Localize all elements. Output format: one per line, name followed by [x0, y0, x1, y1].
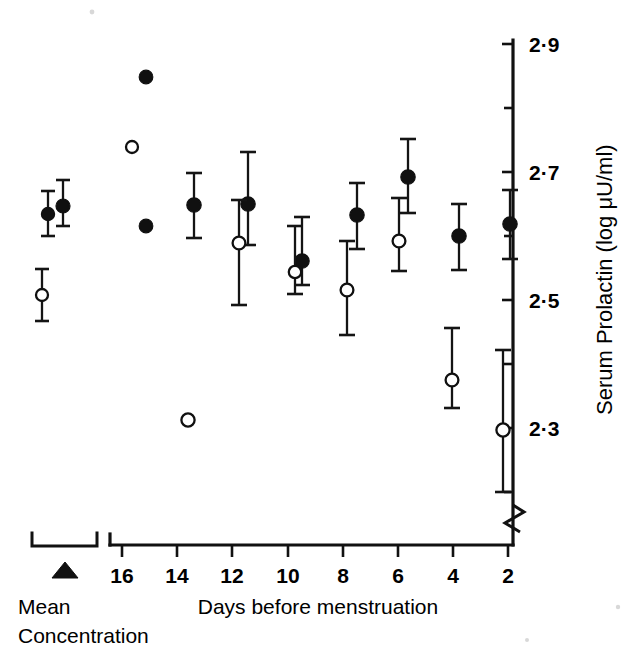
data-point-open	[444, 328, 460, 408]
data-point-open	[495, 350, 511, 492]
mean-label-line2: Concentration	[18, 624, 149, 647]
x-tick-label: 14	[165, 564, 189, 587]
y-axis-title: Serum Prolactin (log μU/ml)	[592, 144, 617, 415]
data-point-filled	[139, 219, 153, 233]
data-point-open	[181, 413, 194, 426]
mean-point-filled-2	[56, 180, 70, 226]
x-tick-label: 16	[110, 564, 133, 587]
data-point-open	[391, 198, 407, 271]
figure-canvas: 2·9 2·7 2·5 2·3 Serum Prolactin (log μU/…	[0, 0, 636, 663]
scan-speck	[616, 605, 620, 609]
y-tick-label: 2·5	[529, 289, 560, 312]
data-point-open	[126, 141, 138, 153]
y-tick-label: 2·3	[529, 417, 559, 440]
mean-label-line1: Mean	[18, 595, 71, 618]
y-tick-label: 2·9	[529, 33, 559, 56]
data-point-filled	[502, 190, 518, 259]
mean-triangle-marker	[52, 562, 78, 578]
data-point-open	[231, 200, 247, 305]
mean-point-filled-1	[41, 191, 55, 236]
x-tick-label: 6	[392, 564, 404, 587]
mean-point-open-1	[35, 269, 49, 321]
data-point-filled	[349, 183, 365, 249]
data-point-open	[339, 241, 355, 335]
x-tick-label: 4	[447, 564, 459, 587]
data-point-filled	[451, 204, 467, 270]
x-axis-title: Days before menstruation	[198, 595, 438, 618]
scan-speck	[525, 638, 529, 642]
prolactin-scatter-chart: 2·9 2·7 2·5 2·3 Serum Prolactin (log μU/…	[0, 0, 636, 663]
data-point-filled	[186, 173, 202, 238]
x-tick-label: 2	[502, 564, 514, 587]
x-tick-label: 12	[220, 564, 243, 587]
data-point-filled	[400, 139, 416, 213]
mean-concentration-bracket	[32, 533, 97, 546]
y-tick-label: 2·7	[529, 161, 559, 184]
x-axis	[110, 534, 513, 557]
data-point-filled	[240, 152, 256, 245]
data-point-filled	[139, 70, 153, 84]
x-tick-label: 10	[276, 564, 299, 587]
x-tick-label: 8	[337, 564, 349, 587]
scan-speck	[90, 10, 95, 15]
